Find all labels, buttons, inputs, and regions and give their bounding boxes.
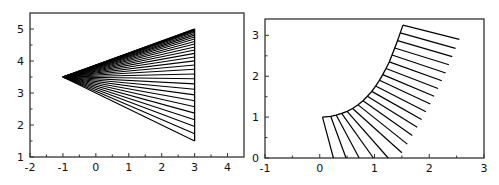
normal-segment <box>386 68 438 88</box>
normal-segment <box>400 33 455 49</box>
normal-segment <box>389 62 442 81</box>
y-tick-label: 2 <box>252 70 259 83</box>
x-tick-label: 1 <box>371 162 378 175</box>
x-tick-label: -2 <box>25 161 36 174</box>
normal-segment <box>367 96 417 127</box>
plot-frame <box>30 13 244 157</box>
y-tick-label: 4 <box>17 55 24 68</box>
y-tick-label: 5 <box>17 23 24 36</box>
y-tick-label: 3 <box>17 87 24 100</box>
normal-segment <box>395 48 449 65</box>
left-plot-fan: -2-10123412345 <box>17 13 244 174</box>
normal-segment <box>358 105 407 144</box>
x-tick-label: 0 <box>92 161 99 174</box>
x-tick-label: 1 <box>125 161 132 174</box>
right-plot-curve-normals: -101230123 <box>252 19 488 175</box>
x-tick-label: 3 <box>481 162 488 175</box>
x-tick-label: 3 <box>191 161 198 174</box>
normal-segment <box>397 41 452 57</box>
y-tick-label: 1 <box>252 111 259 124</box>
fan-line <box>63 77 195 141</box>
x-tick-label: 2 <box>158 161 165 174</box>
y-tick-label: 3 <box>252 29 259 42</box>
y-tick-label: 0 <box>252 152 259 165</box>
normal-segment <box>322 117 333 158</box>
x-tick-label: 4 <box>224 161 231 174</box>
x-tick-label: 0 <box>316 162 323 175</box>
x-tick-label: -1 <box>57 161 68 174</box>
normal-segment <box>363 101 412 136</box>
y-tick-label: 1 <box>17 151 24 164</box>
y-tick-label: 2 <box>17 119 24 132</box>
normal-segment <box>392 55 446 73</box>
normal-segment <box>403 25 459 39</box>
figure: -2-10123412345 -101230123 <box>0 0 499 185</box>
x-tick-label: 2 <box>426 162 433 175</box>
curve-line <box>322 25 402 117</box>
x-tick-label: -1 <box>260 162 271 175</box>
fan-line <box>63 29 195 77</box>
normal-segment <box>331 116 346 158</box>
